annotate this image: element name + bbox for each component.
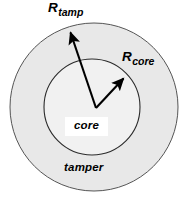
r-tamp-subscript: tamp [58,6,83,18]
core-region-label: core [65,117,108,136]
r-core-symbol: R [122,49,132,64]
r-core-label: Rcore [122,50,154,64]
r-tamp-label: Rtamp [48,1,83,15]
r-core-subscript: core [132,55,154,67]
r-tamp-symbol: R [48,0,58,15]
tamper-region-label: tamper [64,162,104,174]
figure-root: Rtamp Rcore core tamper [0,0,188,201]
core-region-circle [44,59,140,155]
